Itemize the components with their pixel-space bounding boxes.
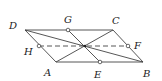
label-g: G: [64, 14, 72, 25]
point-e-marker: [98, 60, 102, 64]
label-e: E: [93, 69, 102, 80]
center-point: [84, 45, 87, 48]
point-h-marker: [37, 44, 41, 48]
geometry-diagram: D G C H F A E B: [0, 0, 162, 81]
label-c: C: [112, 15, 120, 26]
point-g-marker: [66, 28, 70, 32]
label-d: D: [8, 20, 17, 31]
label-f: F: [133, 40, 142, 51]
label-b: B: [142, 68, 150, 79]
label-h: H: [23, 46, 33, 57]
point-f-marker: [126, 44, 130, 48]
label-a: A: [43, 67, 51, 78]
